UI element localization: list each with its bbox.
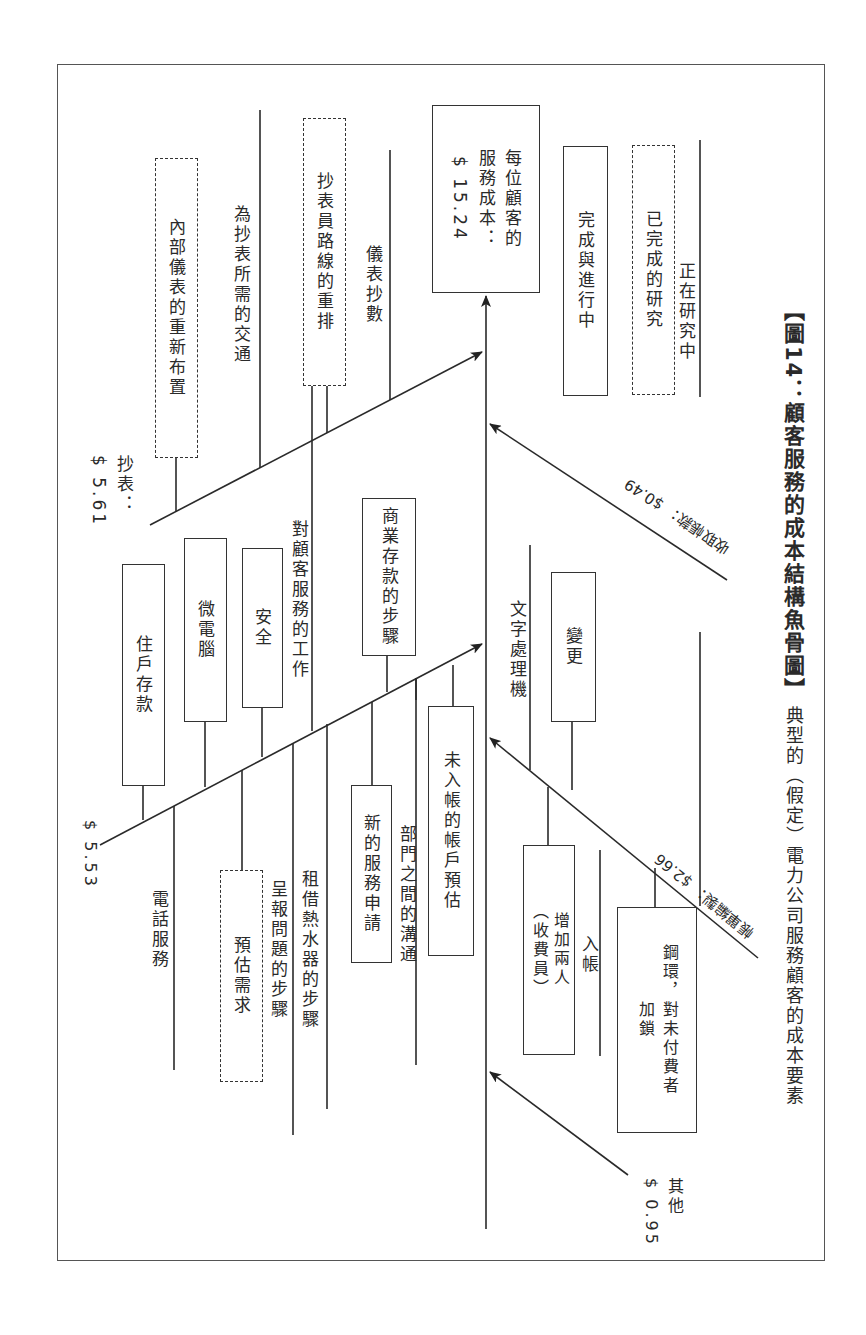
item-word-processor: 文字處理機: [506, 600, 527, 700]
item-route-rearrangement: 抄表員路線的重排: [303, 118, 346, 386]
meter-branch-name: 抄表：: [114, 455, 134, 515]
legend-dashed-box: 已完成的研究: [632, 145, 675, 395]
lock-line-1: 鋼環，對未付費者: [660, 944, 679, 1096]
item-label: 抄表員路線的重排: [313, 172, 336, 332]
legend-dashed-label: 已完成的研究: [642, 210, 665, 330]
item-problem-report-steps: 呈報問題的步驟: [267, 880, 288, 1020]
other-branch-cost: $ 0.95: [642, 1178, 661, 1247]
item-safety: 安全: [242, 548, 283, 708]
legend-line-label: 正在研究中: [675, 262, 696, 362]
item-label: 變更: [562, 627, 585, 667]
item-meter-reading-count: 儀表抄數: [362, 245, 383, 325]
item-commercial-deposit: 商業存款的步驟: [362, 498, 416, 656]
item-unbilled-account-estimate: 未入帳的帳戶預估: [428, 706, 474, 956]
customer-service-cost: $ 5.53: [80, 820, 100, 889]
item-label: 內部儀表的重新布置: [165, 218, 188, 398]
item-add-two-collectors: 增加兩人 （收費員）: [523, 845, 575, 1055]
item-residential-deposit: 住戶存款: [122, 564, 165, 786]
head-line-2: 服務成本：: [476, 149, 496, 249]
figure-caption: 【圖14：顧客服務的成本結構魚骨圖】 典型的（假定）電力公司服務顧客的成本要素: [778, 300, 808, 1106]
meter-branch-label: 抄表： $ 5.61: [85, 455, 136, 527]
caption-title: 【圖14：顧客服務的成本結構魚骨圖】: [781, 300, 805, 701]
item-internal-meter-relocation: 內部儀表的重新布置: [155, 158, 198, 458]
item-label: 住戶存款: [132, 635, 155, 715]
item-changes: 變更: [551, 572, 596, 722]
item-transport-for-reading: 為抄表所需的交通: [230, 205, 251, 365]
item-customer-service-work: 對顧客服務的工作: [288, 520, 309, 680]
item-label: 安全: [251, 608, 274, 648]
head-total-cost-box: 每位顧客的 服務成本： $ 15.24: [432, 105, 540, 293]
caption-subtitle: 典型的（假定）電力公司服務顧客的成本要素: [783, 706, 804, 1106]
other-branch-name: 其他: [665, 1178, 684, 1216]
item-posting: 入帳: [578, 935, 599, 975]
legend-solid-label: 完成與進行中: [574, 211, 597, 331]
other-branch-label: 其他 $ 0.95: [640, 1178, 685, 1247]
legend-solid-box: 完成與進行中: [563, 146, 608, 396]
add-staff-line-1: 增加兩人: [551, 912, 570, 988]
head-line-3: $ 15.24: [450, 156, 470, 242]
item-microcomputer: 微電腦: [184, 538, 227, 722]
item-demand-estimate: 預估需求: [220, 870, 263, 1082]
item-telephone-service: 電話服務: [148, 890, 169, 970]
add-staff-line-2: （收費員）: [530, 903, 549, 998]
item-label: 新的服務申請: [360, 814, 383, 934]
item-label: 微電腦: [194, 600, 217, 660]
head-line-1: 每位顧客的: [503, 149, 523, 249]
item-new-service-application: 新的服務申請: [351, 785, 392, 963]
item-label: 商業存款的步驟: [378, 507, 401, 647]
item-interdepartment-communication: 部門之間的溝通: [396, 825, 417, 965]
item-label: 預估需求: [230, 936, 253, 1016]
item-ring-lock-nonpayers: 鋼環，對未付費者 加鎖: [617, 907, 697, 1133]
lock-line-2: 加鎖: [636, 1001, 655, 1039]
meter-branch-cost: $ 5.61: [89, 455, 109, 527]
item-water-heater-rental-steps: 租借熱水器的步驟: [298, 870, 319, 1030]
item-label: 未入帳的帳戶預估: [440, 751, 463, 911]
